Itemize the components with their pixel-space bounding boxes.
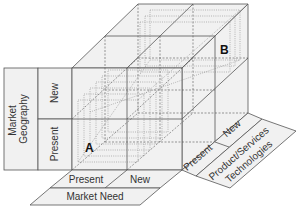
- market-need-present: Present: [69, 174, 104, 185]
- innovation-cube-diagram: A B Market Geography New Present Present…: [0, 0, 304, 209]
- market-geography-line1: Market: [7, 105, 18, 136]
- market-need-title: Market Need: [66, 191, 123, 202]
- market-geography-present: Present: [49, 127, 60, 162]
- market-geography-line2: Geography: [18, 94, 29, 143]
- market-geography-new: New: [49, 82, 60, 103]
- market-need-new: New: [130, 174, 151, 185]
- point-b-label: B: [220, 43, 229, 57]
- point-a-label: A: [85, 141, 94, 155]
